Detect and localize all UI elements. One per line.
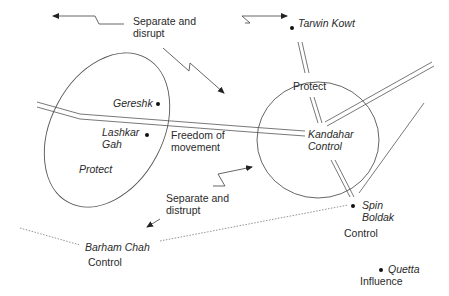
quetta-dot	[379, 268, 383, 272]
border-line	[359, 103, 424, 193]
freedom-of-movement-label: Freedom of movement	[171, 129, 225, 153]
kandahar-protect-label: Protect	[293, 80, 326, 92]
helmand-protect-label: Protect	[79, 163, 112, 175]
spin-boldak-control-label: Control	[344, 227, 378, 239]
quetta-label: Quetta	[388, 263, 420, 275]
barham-chah-control-label: Control	[88, 256, 122, 268]
quetta-influence-label: Influence	[360, 275, 403, 287]
tarwin-kowt-dot	[290, 26, 294, 30]
kandahar-control-label: Kandahar Control	[308, 128, 354, 152]
tarwin-kowt-label: Tarwin Kowt	[298, 17, 355, 29]
gereshk-label: Gereshk	[113, 97, 153, 109]
gereshk-dot	[156, 102, 160, 106]
barham-chah-label: Barham Chah	[85, 241, 150, 253]
road-kandahar-spin-boldak	[331, 160, 354, 197]
separate-disrupt-top-label: Separate and disrupt	[133, 15, 196, 39]
lashkar-gah-label: Lashkar Gah	[102, 126, 139, 150]
spin-boldak-dot	[351, 204, 355, 208]
spin-boldak-label: Spin Boldak	[362, 199, 394, 223]
separate-disrupt-bottom-label: Separate and distrupt	[166, 192, 229, 216]
lashkar-gah-dot	[145, 133, 149, 137]
road-kandahar-northeast	[325, 62, 434, 126]
